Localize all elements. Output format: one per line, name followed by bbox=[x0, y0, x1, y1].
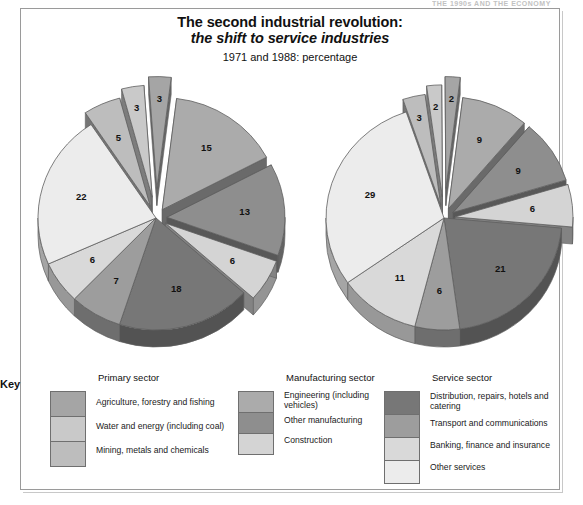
legend-swatch bbox=[385, 461, 419, 483]
pie-slice-label: 6 bbox=[437, 285, 442, 296]
pie-slice-label: 6 bbox=[90, 254, 95, 265]
pie-svg: 15136187622533 bbox=[8, 66, 298, 371]
legend-swatch bbox=[239, 434, 273, 454]
legend-group-title: Service sector bbox=[432, 372, 574, 383]
page-title: The second industrial revolution: bbox=[20, 14, 560, 30]
legend-key-label: Key bbox=[0, 378, 20, 390]
pie-svg: 9962161129322 bbox=[296, 66, 583, 371]
legend-swatch bbox=[385, 392, 419, 415]
legend-entry-label: Construction bbox=[284, 430, 398, 450]
pie-slice-label: 21 bbox=[495, 263, 506, 274]
legend-entries: Agriculture, forestry and fishingWater a… bbox=[96, 390, 260, 462]
pie-slice-label: 29 bbox=[365, 189, 376, 200]
legend-entry-label: Water and energy (including coal) bbox=[96, 414, 260, 438]
pie-chart-1971: 15136187622533 bbox=[8, 66, 298, 371]
legend-swatch bbox=[51, 442, 85, 466]
legend-swatch bbox=[51, 417, 85, 442]
pie-slice-label: 5 bbox=[116, 132, 122, 143]
pie-slice-label: 9 bbox=[516, 165, 521, 176]
legend-swatch-stack bbox=[384, 391, 420, 484]
legend-entries: Engineering (including vehicles)Other ma… bbox=[284, 390, 398, 450]
legend-swatch bbox=[385, 415, 419, 438]
legend-swatch-stack bbox=[50, 391, 86, 467]
pie-slice-label: 9 bbox=[477, 134, 482, 145]
title-block: The second industrial revolution: the sh… bbox=[20, 14, 560, 65]
legend-entry-label: Agriculture, forestry and fishing bbox=[96, 390, 260, 414]
legend-entries: Distribution, repairs, hotels and cateri… bbox=[430, 390, 574, 478]
pie-slice-label: 3 bbox=[134, 102, 139, 113]
legend-entry-label: Other services bbox=[430, 456, 574, 478]
pie-slice-label: 3 bbox=[417, 112, 422, 123]
chart-page: THE 1990s AND THE ECONOMY The second ind… bbox=[0, 0, 583, 505]
pie-slice-label: 7 bbox=[113, 275, 118, 286]
legend-swatch bbox=[385, 438, 419, 461]
pie-slice-label: 22 bbox=[76, 191, 87, 202]
pie-chart-1988: 9962161129322 bbox=[296, 66, 583, 371]
legend-entry-label: Other manufacturing bbox=[284, 410, 398, 430]
legend-entry-label: Engineering (including vehicles) bbox=[284, 390, 398, 410]
legend-entry-label: Transport and communications bbox=[430, 412, 574, 434]
legend-entry-label: Distribution, repairs, hotels and cateri… bbox=[430, 390, 574, 412]
pie-slice-label: 18 bbox=[171, 283, 182, 294]
pie-slice-label: 15 bbox=[201, 142, 212, 153]
legend-group-title: Primary sector bbox=[98, 372, 260, 383]
pie-slice-label: 2 bbox=[449, 93, 454, 104]
pie-slice-label: 3 bbox=[157, 93, 162, 104]
legend-entry-label: Banking, finance and insurance bbox=[430, 434, 574, 456]
legend-group-primary: Primary sector Agriculture, forestry and… bbox=[50, 372, 260, 389]
cutoff-header-text: THE 1990s AND THE ECONOMY bbox=[432, 0, 572, 7]
page-subtitle-italic: the shift to service industries bbox=[20, 30, 560, 47]
legend-group-service: Service sector Distribution, repairs, ho… bbox=[384, 372, 574, 389]
legend: Key Primary sector Agriculture, forestry… bbox=[28, 372, 556, 490]
legend-swatch bbox=[239, 413, 273, 434]
legend-group-manufacturing: Manufacturing sector Engineering (includ… bbox=[238, 372, 398, 389]
legend-entry-label: Mining, metals and chemicals bbox=[96, 438, 260, 462]
pie-slice-label: 2 bbox=[433, 101, 438, 112]
legend-swatch bbox=[239, 392, 273, 413]
legend-swatch bbox=[51, 392, 85, 417]
legend-swatch-stack bbox=[238, 391, 274, 455]
pie-slice-label: 11 bbox=[395, 272, 406, 283]
legend-group-title: Manufacturing sector bbox=[286, 372, 398, 383]
pie-slice-label: 6 bbox=[530, 203, 535, 214]
pie-slice-label: 6 bbox=[230, 255, 235, 266]
chart-subtitle: 1971 and 1988: percentage bbox=[20, 49, 560, 65]
pie-slice-label: 13 bbox=[239, 206, 250, 217]
